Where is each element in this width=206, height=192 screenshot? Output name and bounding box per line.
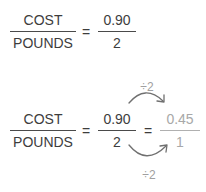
eq1-pounds-denominator: POUNDS — [10, 35, 76, 51]
divide-arrows — [0, 0, 206, 192]
eq2-pounds-denominator: POUNDS — [10, 134, 76, 150]
eq2-middle-fraction-bar — [98, 130, 136, 131]
eq1-equals-sign: = — [80, 24, 92, 40]
eq1-right-numerator: 0.90 — [98, 12, 136, 28]
eq2-middle-numerator: 0.90 — [98, 111, 136, 127]
eq1-right-denominator: 2 — [98, 35, 136, 51]
eq2-cost-numerator: COST — [10, 111, 76, 127]
top-divide-label: ÷2 — [136, 80, 158, 94]
eq2-equals-sign-2: = — [142, 123, 154, 139]
eq2-result-denominator: 1 — [160, 134, 200, 150]
eq2-result-numerator: 0.45 — [160, 111, 200, 127]
eq1-left-fraction-bar — [10, 31, 76, 32]
eq2-left-fraction-bar — [10, 130, 76, 131]
eq2-equals-sign-1: = — [80, 123, 92, 139]
bottom-divide-label: ÷2 — [138, 168, 160, 182]
eq1-cost-numerator: COST — [10, 12, 76, 28]
eq2-middle-denominator: 2 — [98, 134, 136, 150]
top-arrowhead-icon — [157, 95, 164, 102]
eq2-result-fraction-bar — [160, 130, 200, 131]
top-curved-arrow-icon — [129, 93, 163, 103]
eq1-right-fraction-bar — [98, 31, 136, 32]
